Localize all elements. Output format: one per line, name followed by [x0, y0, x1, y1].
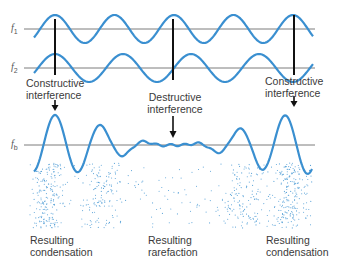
annotation-line: interference	[140, 103, 210, 115]
label-line: Resulting	[266, 234, 328, 246]
annotation-line: Destructive	[140, 91, 210, 103]
annotation-constructive-right: Constructive interference	[265, 75, 323, 99]
label-rarefaction: Resulting rarefaction	[148, 234, 198, 258]
annotation-line: Constructive	[265, 75, 323, 87]
label-line: condensation	[30, 246, 92, 258]
f1-label: f1	[11, 22, 18, 35]
f1-subscript: 1	[14, 28, 18, 35]
fb-label: fb	[11, 138, 18, 151]
arrow-down-icon	[52, 100, 59, 111]
label-line: Resulting	[148, 234, 198, 246]
annotation-line: Constructive	[26, 77, 84, 89]
label-line: rarefaction	[148, 246, 198, 258]
f2-label: f2	[11, 61, 18, 74]
label-line: condensation	[266, 246, 328, 258]
particle-density-band	[29, 163, 312, 229]
label-condensation-left: Resulting condensation	[30, 234, 92, 258]
annotation-line: interference	[265, 87, 323, 99]
arrow-down-icon	[170, 116, 177, 138]
beats-diagram	[0, 0, 342, 264]
label-line: Resulting	[30, 234, 92, 246]
f2-subscript: 2	[14, 67, 18, 74]
fb-subscript: b	[14, 144, 18, 151]
label-condensation-right: Resulting condensation	[266, 234, 328, 258]
annotation-destructive: Destructive interference	[140, 91, 210, 115]
annotation-line: interference	[26, 89, 84, 101]
annotation-constructive-left: Constructive interference	[26, 77, 84, 101]
